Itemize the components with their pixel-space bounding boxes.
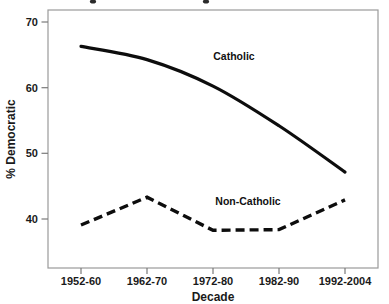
series-label-non-catholic: Non-Catholic — [215, 195, 280, 207]
chart-container: 70 60 50 40 % Democratic 1952-60 1962-70… — [0, 0, 389, 304]
x-axis-title: Decade — [192, 290, 235, 304]
cropped-title-artifact — [90, 0, 209, 4]
y-axis-ticks — [42, 22, 49, 219]
y-axis-tick-labels: 70 60 50 40 — [26, 16, 38, 225]
x-tick-label-3: 1982-90 — [259, 275, 299, 287]
x-tick-label-2: 1972-80 — [193, 275, 233, 287]
x-axis-ticks — [81, 268, 345, 274]
line-chart: 70 60 50 40 % Democratic 1952-60 1962-70… — [0, 0, 389, 304]
y-axis-title: % Democratic — [4, 99, 18, 179]
x-tick-label-1: 1962-70 — [127, 275, 167, 287]
x-tick-label-0: 1952-60 — [61, 275, 101, 287]
x-tick-label-4: 1992-2004 — [319, 275, 372, 287]
y-tick-label-70: 70 — [26, 16, 38, 28]
y-tick-label-40: 40 — [26, 213, 38, 225]
x-axis-tick-labels: 1952-60 1962-70 1972-80 1982-90 1992-200… — [61, 275, 372, 287]
y-tick-label-60: 60 — [26, 82, 38, 94]
series-label-catholic: Catholic — [213, 50, 255, 62]
y-tick-label-50: 50 — [26, 147, 38, 159]
